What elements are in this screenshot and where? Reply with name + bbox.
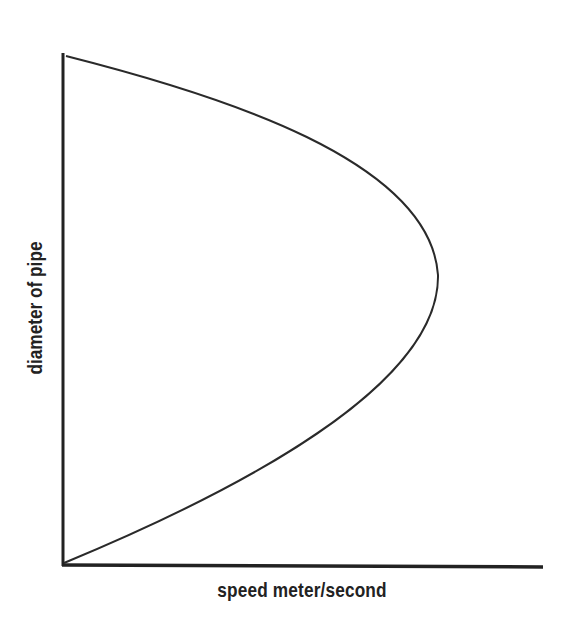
x-axis bbox=[62, 565, 543, 567]
x-axis-label: speed meter/second bbox=[195, 578, 408, 602]
y-axis-label: diameter of pipe bbox=[23, 230, 47, 386]
velocity-profile-diagram: speed meter/second diameter of pipe bbox=[0, 0, 584, 622]
velocity-curve bbox=[64, 56, 438, 563]
plot-area bbox=[0, 0, 584, 622]
